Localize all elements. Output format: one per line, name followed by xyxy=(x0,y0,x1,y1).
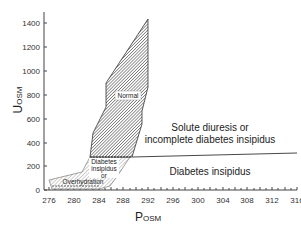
uosm-posm-chart: 0 200 400 600 800 1000 1200 1400 UOSM xyxy=(0,0,301,233)
x-tick-276: 276 xyxy=(42,196,56,205)
x-tick-296: 296 xyxy=(166,196,180,205)
y-axis-title: UOSM xyxy=(11,86,25,113)
x-tick-288: 288 xyxy=(116,196,130,205)
y-tick-400: 400 xyxy=(27,139,41,148)
x-tick-308: 308 xyxy=(240,196,254,205)
x-tick-292: 292 xyxy=(141,196,155,205)
y-tick-1200: 1200 xyxy=(22,43,40,52)
label-solute-line1: Solute diuresis or xyxy=(171,122,249,133)
y-tick-1400: 1400 xyxy=(22,19,40,28)
x-tick-300: 300 xyxy=(191,196,205,205)
x-tick-304: 304 xyxy=(216,196,230,205)
x-tick-280: 280 xyxy=(67,196,81,205)
x-axis-title: POSM xyxy=(135,210,162,224)
y-tick-800: 800 xyxy=(27,91,41,100)
label-diabetes-insipidus: Diabetes insipidus xyxy=(169,166,250,177)
y-tick-0: 0 xyxy=(36,186,41,195)
svg-text:UOSM: UOSM xyxy=(11,86,25,113)
small-label-overhydration: Overhydration xyxy=(63,178,104,186)
small-label-diabetes: Diabetes xyxy=(91,158,117,165)
y-tick-600: 600 xyxy=(27,115,41,124)
x-tick-284: 284 xyxy=(92,196,106,205)
label-solute-line2: incomplete diabetes insipidus xyxy=(145,134,276,145)
region-normal xyxy=(90,19,148,157)
x-tick-labels: 276 280 284 288 292 296 300 304 308 312 … xyxy=(42,196,301,205)
normal-label: Normal xyxy=(118,92,140,99)
di-boundary-line xyxy=(132,153,297,157)
x-tick-316: 316 xyxy=(290,196,301,205)
y-tick-1000: 1000 xyxy=(22,67,40,76)
y-tick-200: 200 xyxy=(27,162,41,171)
x-tick-312: 312 xyxy=(265,196,279,205)
